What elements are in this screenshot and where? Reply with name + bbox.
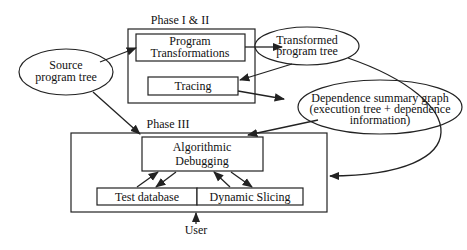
system-architecture-diagram: Phase I & II Program Transformations Tra… [0,0,467,250]
algorithmic-debugging-line2: Debugging [175,154,228,168]
test-database-label: Test database [115,190,179,204]
dynamic-slicing-label: Dynamic Slicing [210,190,291,204]
dependence-summary-graph-node: Dependence summary graph (execution tree… [298,80,462,134]
program-transformations-line2: Transformations [151,46,230,60]
transformed-program-tree-node: Transformed program tree [255,27,359,65]
transformed-line2: program tree [276,44,338,58]
source-program-tree-node: Source program tree [19,49,113,95]
source-line2: program tree [35,70,97,84]
phase-1-2-group: Phase I & II Program Transformations Tra… [128,13,255,103]
dsg-line3: information) [350,113,411,127]
phase-3-group: Phase III Algorithmic Debugging Test dat… [71,117,327,212]
algorithmic-debugging-line1: Algorithmic [173,140,232,154]
tracing-label: Tracing [175,79,212,93]
phase-1-2-label: Phase I & II [151,13,209,27]
phase-3-label: Phase III [147,117,190,131]
user-label: User [185,223,208,237]
